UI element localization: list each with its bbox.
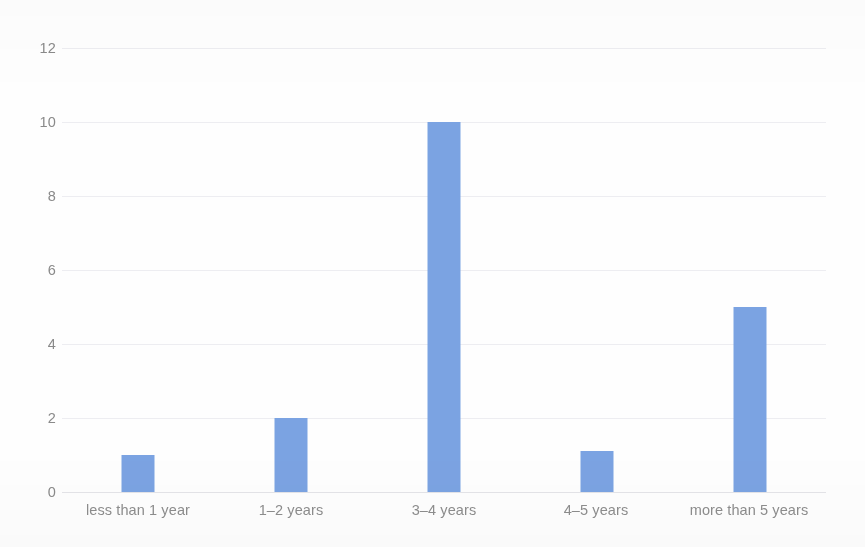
bar-slot-1 [215, 48, 368, 492]
y-tick-12: 12 [10, 41, 56, 56]
x-tick-less-than-1-year: less than 1 year [86, 503, 190, 518]
bar-more-than-5-years[interactable] [733, 307, 766, 492]
gridline-0-baseline [62, 492, 826, 493]
bar-chart: 12 10 8 6 4 2 0 less t [0, 0, 865, 547]
x-tick-more-than-5-years: more than 5 years [690, 503, 809, 518]
bars-layer [62, 48, 826, 492]
y-tick-2: 2 [10, 411, 56, 426]
bar-slot-3 [520, 48, 673, 492]
bar-1-2-years[interactable] [275, 418, 308, 492]
y-tick-10: 10 [10, 115, 56, 130]
y-tick-0: 0 [10, 485, 56, 500]
bar-slot-2 [368, 48, 521, 492]
bar-slot-4 [673, 48, 826, 492]
bar-less-than-1-year[interactable] [122, 455, 155, 492]
bar-slot-0 [62, 48, 215, 492]
x-tick-4-5-years: 4–5 years [564, 503, 629, 518]
y-tick-8: 8 [10, 189, 56, 204]
x-tick-1-2-years: 1–2 years [259, 503, 324, 518]
x-tick-3-4-years: 3–4 years [412, 503, 477, 518]
bar-4-5-years[interactable] [580, 451, 613, 492]
y-tick-6: 6 [10, 263, 56, 278]
y-axis: 12 10 8 6 4 2 0 [0, 48, 56, 492]
y-tick-4: 4 [10, 337, 56, 352]
bar-3-4-years[interactable] [427, 122, 460, 492]
